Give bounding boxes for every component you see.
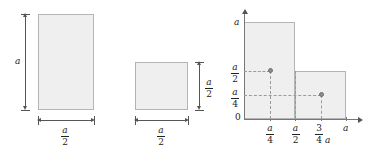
- x-tick-a2-numerator: a: [292, 124, 299, 133]
- x-tick-a4-denominator: 4: [266, 136, 274, 145]
- tall-rect-height-label: a: [15, 57, 20, 66]
- x-tick-3a4-denominator: 4: [315, 136, 323, 145]
- x-tick-label-a-over-4: a 4: [266, 124, 274, 146]
- x-tick-3a4-suffix: a: [325, 135, 330, 146]
- small-square-height-tick-top: [195, 62, 204, 63]
- tall-rect-width-numerator: a: [61, 126, 68, 135]
- y-tick-a2-denominator: 2: [231, 75, 239, 84]
- x-axis-arrowhead: [358, 117, 363, 123]
- guide-horizontal-a-over-2: [244, 71, 270, 72]
- small-square-width-label: a 2: [157, 126, 165, 148]
- x-tick-3a4-fraction: 3 4: [315, 124, 323, 146]
- x-tick-a4-numerator: a: [266, 124, 273, 133]
- y-tick-a4-numerator: a: [231, 88, 238, 97]
- y-tick-label-a-over-4: a 4: [231, 88, 239, 110]
- centroid-dot-right-region: [319, 92, 324, 97]
- guide-vertical-a-over-2: [295, 71, 296, 120]
- guide-horizontal-a-over-4: [244, 95, 321, 96]
- small-square-width-numerator: a: [157, 126, 164, 135]
- tall-rect-width-tick-right: [94, 116, 95, 125]
- tall-rect-width-dimline: [40, 120, 92, 121]
- tall-rect-height-tick-bottom: [21, 110, 30, 111]
- x-tick-label-a-over-2: a 2: [292, 124, 300, 146]
- small-square-shape: [135, 62, 188, 110]
- y-tick-label-a-over-2: a 2: [231, 63, 239, 85]
- tall-rect-height-tick-top: [21, 14, 30, 15]
- small-square-width-tick-left: [135, 116, 136, 125]
- small-square-height-label: a 2: [205, 78, 213, 100]
- y-axis-arrowhead: [242, 9, 248, 14]
- small-square-height-denominator: 2: [205, 90, 213, 99]
- tall-rect-height-dimline: [25, 16, 26, 108]
- y-axis-line: [244, 14, 245, 119]
- tall-rectangle-shape: [38, 14, 94, 110]
- small-square-height-numerator: a: [205, 78, 212, 87]
- x-tick-label-3a-over-4: 3 4 a: [315, 124, 330, 146]
- x-tick-label-a: a: [343, 124, 348, 133]
- figure-canvas: a a 2 a 2 a 2 0 a 4: [0, 0, 372, 152]
- y-tick-a4-denominator: 4: [231, 100, 239, 109]
- tall-rect-width-label: a 2: [61, 126, 69, 148]
- x-tick-3a4-numerator: 3: [315, 124, 323, 133]
- origin-label: 0: [235, 113, 241, 122]
- centroid-dot-left-region: [268, 68, 273, 73]
- small-square-width-dimline: [137, 120, 186, 121]
- x-axis-line: [244, 119, 358, 120]
- small-square-height-tick-bottom: [195, 110, 204, 111]
- tall-rect-width-tick-left: [38, 116, 39, 125]
- small-square-width-denominator: 2: [157, 138, 165, 147]
- small-square-height-dimline: [199, 64, 200, 108]
- y-tick-a2-numerator: a: [231, 63, 238, 72]
- tall-rect-width-denominator: 2: [61, 138, 69, 147]
- small-square-width-tick-right: [188, 116, 189, 125]
- x-tick-mark-a: [346, 117, 347, 121]
- guide-vertical-3a-over-4: [321, 95, 322, 119]
- y-tick-label-a: a: [234, 18, 239, 27]
- x-tick-a2-denominator: 2: [292, 136, 300, 145]
